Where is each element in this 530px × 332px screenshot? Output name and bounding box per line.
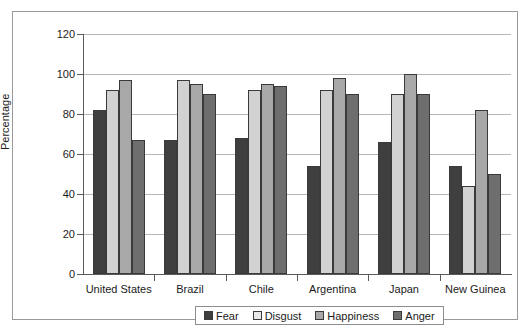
bar-happiness	[475, 110, 488, 274]
chart-figure-frame: 020406080100120 Percentage United States…	[12, 11, 518, 320]
y-axis-tick-label: 80	[29, 108, 75, 120]
bar-happiness	[261, 84, 274, 274]
bar-group	[368, 34, 439, 274]
bar-anger	[346, 94, 359, 274]
y-axis-tick-labels: 020406080100120	[21, 12, 75, 332]
bar-anger	[203, 94, 216, 274]
x-axis-tick	[154, 275, 155, 281]
y-axis-tick	[77, 114, 83, 115]
bar-disgust	[462, 186, 475, 274]
legend-item-happiness: Happiness	[315, 310, 379, 322]
bar-happiness	[333, 78, 346, 274]
bar-disgust	[106, 90, 119, 274]
x-axis-category-label: New Guinea	[445, 283, 506, 295]
bar-anger	[488, 174, 501, 274]
bar-anger	[417, 94, 430, 274]
bar-fear	[307, 166, 320, 274]
bar-happiness	[404, 74, 417, 274]
y-axis-tick-label: 120	[29, 28, 75, 40]
legend-label: Disgust	[265, 310, 302, 322]
y-axis-tick-label: 20	[29, 228, 75, 240]
bar-fear	[449, 166, 462, 274]
bar-happiness	[119, 80, 132, 274]
bar-group	[83, 34, 154, 274]
legend-label: Anger	[405, 310, 434, 322]
y-axis-tick	[77, 194, 83, 195]
bar-anger	[132, 140, 145, 274]
bar-fear	[93, 110, 106, 274]
y-axis-tick	[77, 274, 83, 275]
y-axis-tick	[77, 234, 83, 235]
y-axis-tick-label: 60	[29, 148, 75, 160]
bar-disgust	[248, 90, 261, 274]
bar-group	[226, 34, 297, 274]
legend-item-fear: Fear	[204, 310, 239, 322]
y-axis-tick	[77, 74, 83, 75]
bar-group	[440, 34, 511, 274]
x-axis-category-label: Brazil	[176, 283, 204, 295]
x-axis-tick	[368, 275, 369, 281]
legend-item-anger: Anger	[393, 310, 434, 322]
legend-item-disgust: Disgust	[253, 310, 302, 322]
bar-group	[154, 34, 225, 274]
x-axis-category-label: Chile	[249, 283, 274, 295]
legend-swatch-icon	[393, 311, 402, 320]
bar-happiness	[190, 84, 203, 274]
y-axis-tick-label: 100	[29, 68, 75, 80]
legend-swatch-icon	[315, 311, 324, 320]
x-axis-category-label: Japan	[389, 283, 419, 295]
bar-anger	[274, 86, 287, 274]
y-axis-tick-label: 40	[29, 188, 75, 200]
bar-disgust	[391, 94, 404, 274]
legend-swatch-icon	[253, 311, 262, 320]
chart-legend: FearDisgustHappinessAnger	[195, 306, 444, 325]
y-axis-title: Percentage	[0, 94, 11, 150]
x-axis-category-label: United States	[86, 283, 152, 295]
bar-fear	[164, 140, 177, 274]
legend-swatch-icon	[204, 311, 213, 320]
x-axis-tick	[297, 275, 298, 281]
plot-area	[83, 34, 511, 274]
bar-fear	[235, 138, 248, 274]
x-axis-tick	[226, 275, 227, 281]
y-axis-tick	[77, 34, 83, 35]
bar-disgust	[177, 80, 190, 274]
y-axis-tick	[77, 154, 83, 155]
y-axis-tick-label: 0	[29, 268, 75, 280]
x-axis-tick	[440, 275, 441, 281]
y-axis-line	[83, 34, 84, 275]
x-axis-category-label: Argentina	[309, 283, 356, 295]
legend-label: Fear	[216, 310, 239, 322]
bar-disgust	[320, 90, 333, 274]
bar-fear	[378, 142, 391, 274]
legend-label: Happiness	[327, 310, 379, 322]
bar-group	[297, 34, 368, 274]
